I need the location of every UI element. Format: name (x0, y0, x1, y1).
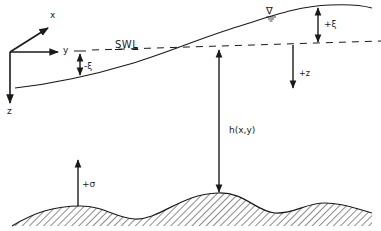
swl-letter-w: W (122, 39, 132, 50)
seabed (0, 185, 381, 231)
x-axis-arrow (10, 28, 48, 52)
neg-xi-label: -ξ (84, 62, 92, 71)
wave-coordinate-diagram: x y z SWL -ξ +ξ +z h(x,y) +σ ∇ (0, 0, 381, 231)
pos-xi-label: +ξ (324, 20, 337, 29)
x-axis-label: x (50, 11, 55, 20)
z-axis-label: z (7, 107, 12, 116)
depth-label: h(x,y) (229, 126, 255, 135)
y-axis-label: y (63, 46, 68, 55)
pos-z-label: +z (299, 70, 310, 78)
swl-letter-l: L (132, 39, 138, 50)
water-level-icon: ∇ (266, 6, 273, 16)
swl-letter-s: S (115, 39, 122, 50)
pos-sigma-label: +σ (82, 180, 95, 189)
swl-label: SWL (115, 40, 138, 50)
diagram-graphics (0, 0, 381, 231)
coordinate-axes (10, 28, 58, 103)
